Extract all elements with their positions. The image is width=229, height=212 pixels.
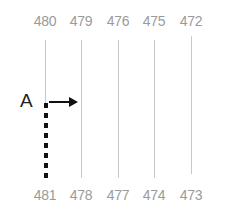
line-4 [154,40,155,178]
bottom-label-4: 474 [136,187,172,203]
top-label-4: 475 [136,13,172,29]
arrow-shaft [49,101,71,103]
bottom-label-3: 477 [100,187,136,203]
bottom-label-2: 478 [63,187,99,203]
dotted-path [44,103,48,181]
line-5 [191,36,192,174]
line-3 [118,40,119,178]
top-label-3: 476 [100,13,136,29]
bottom-label-5: 473 [173,187,209,203]
top-label-5: 472 [173,13,209,29]
top-label-2: 479 [63,13,99,29]
line-1 [45,40,46,103]
top-label-1: 480 [27,13,63,29]
line-2 [81,40,82,178]
bottom-label-1: 481 [27,187,63,203]
arrow-head-icon [69,97,78,107]
marker-label: A [20,90,33,112]
